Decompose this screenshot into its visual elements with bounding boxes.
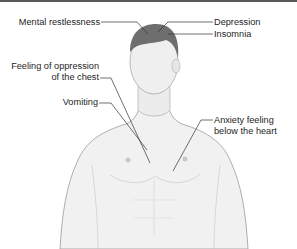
label-mental-restlessness: Mental restlessness (14, 17, 100, 28)
label-chest-oppression: Feeling of oppression of the chest (10, 61, 99, 83)
label-depression: Depression (214, 17, 260, 28)
label-insomnia: Insomnia (214, 29, 251, 40)
label-vomiting: Vomiting (30, 97, 98, 108)
label-anxiety-below-heart: Anxiety feeling below the heart (214, 115, 277, 137)
